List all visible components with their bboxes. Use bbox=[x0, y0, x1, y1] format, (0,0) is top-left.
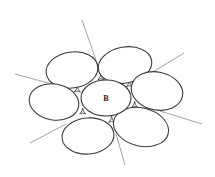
cusp bbox=[80, 108, 86, 114]
cusp bbox=[132, 101, 138, 107]
cell-packing-diagram: B bbox=[0, 0, 215, 177]
radial-line bbox=[30, 124, 66, 143]
center-label: B bbox=[103, 94, 109, 103]
cell-bottom-left bbox=[61, 116, 116, 156]
